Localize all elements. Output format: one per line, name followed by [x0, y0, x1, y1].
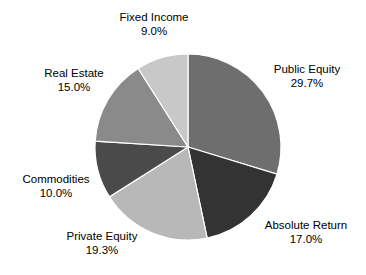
slice-label-percent: 29.7% — [252, 76, 362, 90]
pie-chart: Fixed Income 9.0% Public Equity 29.7% Re… — [0, 0, 366, 275]
slice-label-name: Public Equity — [252, 62, 362, 76]
slice-label-percent: 17.0% — [248, 232, 364, 246]
slice-label-real-estate: Real Estate 15.0% — [20, 66, 128, 94]
slice-label-public-equity: Public Equity 29.7% — [252, 62, 362, 90]
slice-label-name: Fixed Income — [99, 10, 209, 24]
slice-label-absolute-return: Absolute Return 17.0% — [248, 218, 364, 246]
slice-label-commodities: Commodities 10.0% — [2, 172, 110, 200]
slice-label-name: Real Estate — [20, 66, 128, 80]
slice-label-percent: 9.0% — [99, 24, 209, 38]
slice-label-percent: 10.0% — [2, 186, 110, 200]
slice-label-percent: 15.0% — [20, 80, 128, 94]
slice-label-name: Absolute Return — [248, 218, 364, 232]
slice-label-percent: 19.3% — [44, 243, 160, 257]
slice-label-name: Commodities — [2, 172, 110, 186]
slice-label-private-equity: Private Equity 19.3% — [44, 229, 160, 257]
slice-label-fixed-income: Fixed Income 9.0% — [99, 10, 209, 38]
slice-label-name: Private Equity — [44, 229, 160, 243]
